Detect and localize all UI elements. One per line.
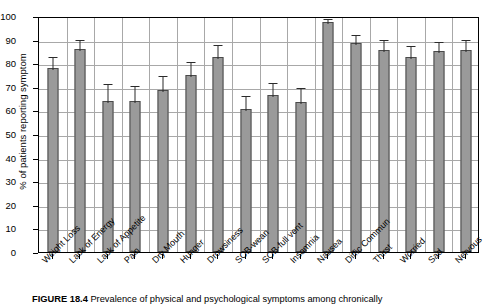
error-bar	[163, 76, 164, 93]
y-axis-tick-label: 60	[0, 106, 16, 116]
bar-group	[260, 18, 288, 252]
error-bar	[135, 86, 136, 103]
plot-area	[38, 17, 479, 253]
bar-group	[204, 18, 232, 252]
caption-text: Prevalence of physical and psychological…	[90, 294, 382, 304]
error-bar	[300, 88, 301, 105]
bar	[75, 49, 86, 252]
error-bar	[411, 46, 412, 59]
bar	[47, 68, 58, 252]
bar	[323, 22, 334, 252]
error-bar	[383, 40, 384, 52]
error-bar	[245, 96, 246, 111]
bar-group	[452, 18, 480, 252]
y-axis-tick-label: 20	[0, 201, 16, 211]
error-bar	[52, 57, 53, 70]
error-bar	[273, 83, 274, 97]
bar	[433, 51, 444, 252]
bar	[158, 90, 169, 252]
bar	[406, 57, 417, 252]
bar	[350, 43, 361, 252]
bar-group	[315, 18, 343, 252]
bar-group	[67, 18, 95, 252]
bar	[185, 75, 196, 252]
bar-group	[425, 18, 453, 252]
error-bar-cap	[324, 19, 333, 20]
error-bar	[80, 40, 81, 51]
y-axis-tick-label: 80	[0, 59, 16, 69]
y-axis-tick-label: 50	[0, 130, 16, 140]
error-bar-cap	[241, 96, 250, 97]
error-bar-cap	[269, 83, 278, 84]
error-bar	[218, 45, 219, 59]
caption-figure-number: FIGURE 18.4	[32, 294, 88, 304]
error-bar	[107, 84, 108, 103]
bar-group	[287, 18, 315, 252]
bar	[213, 57, 224, 252]
error-bar	[190, 62, 191, 77]
error-bar-cap	[462, 40, 471, 41]
bar-group	[149, 18, 177, 252]
bar-group	[397, 18, 425, 252]
bar	[268, 95, 279, 252]
y-axis-tick-label: 90	[0, 36, 16, 46]
error-bar	[466, 40, 467, 52]
y-axis-label: % of patients reporting symptom	[17, 4, 28, 240]
y-axis-tick-label: 70	[0, 83, 16, 93]
error-bar-cap	[159, 76, 168, 77]
y-axis-tick-mark	[33, 253, 38, 254]
bar-series	[39, 18, 478, 252]
figure-caption: FIGURE 18.4 Prevalence of physical and p…	[32, 294, 484, 305]
figure-container: % of patients reporting symptom 01020304…	[0, 0, 497, 308]
error-bar-cap	[76, 40, 85, 41]
error-bar-cap	[103, 84, 112, 85]
error-bar-cap	[379, 40, 388, 41]
bar-group	[39, 18, 67, 252]
error-bar-cap	[296, 88, 305, 89]
error-bar-cap	[434, 42, 443, 43]
y-axis-tick-label: 100	[0, 12, 16, 22]
y-axis-tick-label: 0	[0, 248, 16, 258]
bar-group	[177, 18, 205, 252]
error-bar-cap	[407, 46, 416, 47]
error-bar-cap	[131, 86, 140, 87]
error-bar	[355, 35, 356, 46]
y-axis-tick-label: 40	[0, 154, 16, 164]
error-bar	[438, 42, 439, 54]
error-bar-cap	[214, 45, 223, 46]
bar-group	[342, 18, 370, 252]
error-bar-cap	[186, 62, 195, 63]
error-bar-cap	[351, 35, 360, 36]
y-axis-tick-label: 10	[0, 224, 16, 234]
bar-group	[232, 18, 260, 252]
error-bar-cap	[48, 57, 57, 58]
bar	[461, 50, 472, 252]
y-axis-tick-label: 30	[0, 177, 16, 187]
